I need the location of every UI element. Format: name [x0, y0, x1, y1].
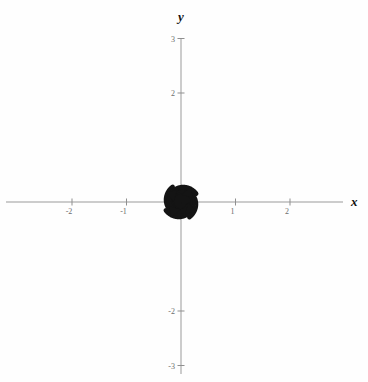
x-axis-label: x: [350, 194, 358, 209]
y-tick-label: -2: [168, 307, 175, 316]
x-tick-label: 1: [231, 207, 235, 216]
y-tick-label: 2: [171, 89, 175, 98]
x-tick-label: -1: [120, 207, 127, 216]
x-tick-label: 2: [285, 207, 289, 216]
y-tick-label: 3: [171, 35, 175, 44]
plot-canvas: -2-11232-2-3 x y: [0, 0, 368, 382]
phase-portrait-figure: -2-11232-2-3 x y: [0, 0, 368, 382]
y-axis-label: y: [176, 9, 184, 24]
y-tick-label: -3: [168, 362, 175, 371]
x-tick-label: -2: [66, 207, 73, 216]
